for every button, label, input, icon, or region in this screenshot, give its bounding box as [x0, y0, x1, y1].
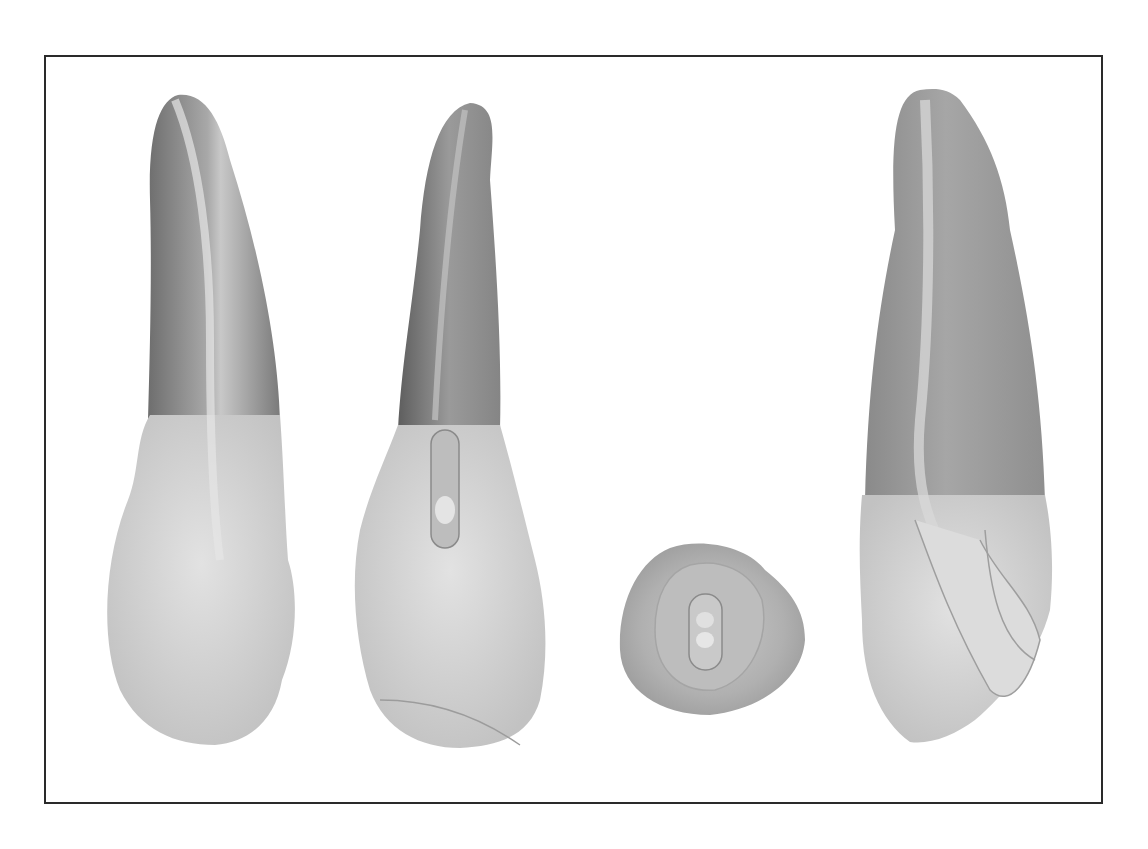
root — [398, 103, 500, 430]
access-cavity — [431, 430, 459, 548]
tooth-view-lingual — [355, 103, 546, 748]
tooth-view-occlusal — [620, 544, 805, 715]
tooth-view-proximal — [860, 89, 1052, 743]
tooth-view-labial — [107, 95, 295, 745]
crown — [107, 415, 295, 745]
root — [865, 89, 1045, 500]
access-opening — [689, 594, 722, 670]
tooth-illustration — [0, 0, 1148, 849]
